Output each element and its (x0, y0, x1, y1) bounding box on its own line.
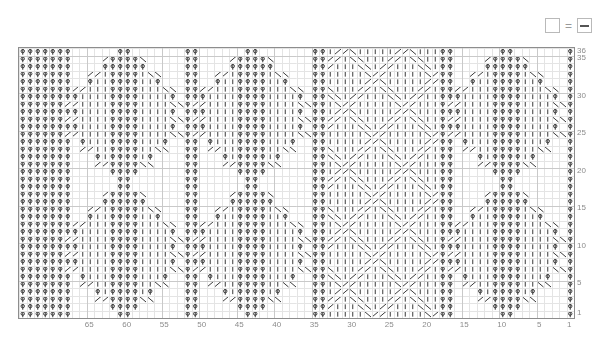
row-tick-label: 5 (577, 279, 581, 287)
row-tick-label: 20 (577, 167, 586, 175)
row-tick-label: 10 (577, 242, 586, 250)
chart-grid (18, 47, 575, 319)
row-tick-label: 35 (577, 54, 586, 62)
column-tick-label: 50 (197, 321, 206, 329)
row-tick-label: 25 (577, 129, 586, 137)
row-tick-label: 15 (577, 204, 586, 212)
column-number-axis: 65605550454035302520151051 (0, 321, 602, 335)
chart-area (18, 47, 575, 319)
column-tick-label: 10 (497, 321, 506, 329)
column-tick-label: 5 (537, 321, 541, 329)
column-tick-label: 45 (235, 321, 244, 329)
chart-symbol-layer (19, 48, 574, 318)
column-tick-label: 35 (310, 321, 319, 329)
row-number-axis: 3635302520151051 (577, 47, 602, 317)
column-tick-label: 30 (347, 321, 356, 329)
column-tick-label: 60 (122, 321, 131, 329)
purl-dash-swatch-icon (577, 18, 592, 33)
column-tick-label: 1 (567, 321, 571, 329)
legend-equals-label: = (565, 20, 572, 32)
column-tick-label: 25 (385, 321, 394, 329)
knitting-chart-page: = 3635302520151051 656055504540353025201… (0, 0, 602, 352)
column-tick-label: 15 (460, 321, 469, 329)
row-tick-label: 1 (577, 309, 581, 317)
column-tick-label: 55 (160, 321, 169, 329)
column-tick-label: 40 (272, 321, 281, 329)
blank-cell-swatch-icon (545, 18, 560, 33)
legend: = (545, 18, 592, 33)
row-tick-label: 30 (577, 92, 586, 100)
column-tick-label: 20 (422, 321, 431, 329)
column-tick-label: 65 (85, 321, 94, 329)
